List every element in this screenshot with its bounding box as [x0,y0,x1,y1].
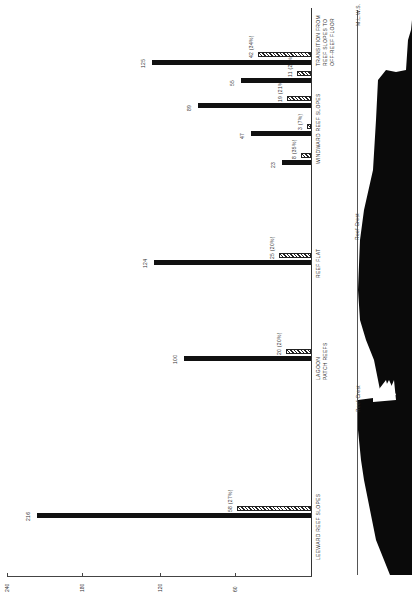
bar-total [152,60,311,65]
group-label: OFF-REEF FLOOR [329,18,335,66]
axis-tick-label: 60 [232,586,238,592]
axis-tick-label: 180 [79,584,85,592]
bar-total [241,78,311,83]
group-label: LEEWARD REEF SLOPES [315,494,321,560]
bar-value-label: 55 [229,80,235,86]
bar-total [282,160,311,165]
group-label: TRANSITION FROM [315,15,321,66]
bar-value-label: 125 [140,59,146,68]
bar-value-label: 124 [142,259,148,268]
bar-subset-label: 8 (35%) [291,139,297,159]
bar-subset-label: 58 (27%) [227,489,233,512]
baseline [311,8,312,576]
bar-value-label: 100 [172,355,178,364]
bar-total [37,513,311,518]
bar-subset [286,349,311,354]
bar-value-label: 23 [270,162,276,168]
bar-subset [297,71,311,76]
axis-tick [7,573,8,577]
bar-subset [237,506,311,511]
group-label: PATCH REEFS [322,342,328,380]
bar-subset [301,153,311,158]
axis-tick [160,573,161,577]
bar-subset-label: 25 (20%) [269,236,275,259]
bar-total [184,356,311,361]
bar-subset [287,96,311,101]
bar-value-label: 47 [239,133,245,139]
axis-tick-label: 120 [157,584,163,592]
bar-subset-label: 20 (20%) [276,332,282,355]
bar-subset-label: 42 (34%) [248,35,254,58]
bar-subset [279,253,311,258]
reef-profile-silhouette [356,0,412,598]
group-label: REEF SLOPES TO [322,19,328,66]
bar-subset [307,124,311,129]
axis-tick-label: 240 [4,584,10,592]
axis-tick [82,573,83,577]
reef-crest-label-lower: Reef Crest [355,385,361,412]
group-label: LAGOON [315,357,321,380]
bar-value-label: 216 [25,512,31,521]
bar-total [154,260,311,265]
bar-total [198,103,311,108]
group-label: REEF FLAT [315,249,321,278]
bar-subset-label: 3 (7%) [297,113,303,130]
reef-crest-label-upper: Reef Crest [355,220,360,240]
group-label: WINDWARD REEF SLOPES [315,93,321,164]
bar-total [251,131,311,136]
bar-value-label: 89 [186,105,192,111]
mlws-label: M.L.W.S. [355,3,361,26]
bar-subset-label: 11 (20%) [287,55,293,77]
bar-subset [258,52,311,57]
axis-tick [235,573,236,577]
